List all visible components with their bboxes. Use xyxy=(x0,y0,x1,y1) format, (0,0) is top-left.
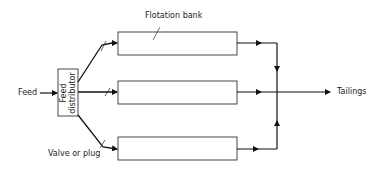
feed-label: Feed xyxy=(18,89,37,97)
distributor-branch-middle xyxy=(78,88,117,96)
flowsheet-diagram xyxy=(0,0,384,171)
flotation-bank-2 xyxy=(118,81,237,104)
flotation-bank-3 xyxy=(118,137,237,160)
distributor-branch-top xyxy=(78,41,117,82)
bank-outputs xyxy=(237,40,330,152)
valve-label: Valve or plug xyxy=(48,150,100,158)
flotation-bank-label: Flotation bank xyxy=(145,12,202,20)
tailings-label: Tailings xyxy=(337,88,366,96)
distributor-label-line1: Feed xyxy=(59,70,68,116)
distributor-branch-bottom xyxy=(78,115,117,149)
flotation-bank-1 xyxy=(118,32,237,55)
distributor-label-line2: distributor xyxy=(68,70,77,116)
feed-distributor-label: Feed distributor xyxy=(59,70,77,116)
